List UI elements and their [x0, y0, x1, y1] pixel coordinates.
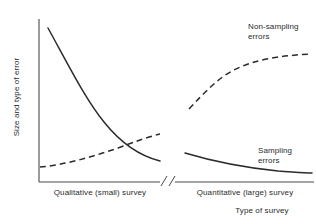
- chart-figure: Size and type of error Non-sampling erro…: [0, 0, 316, 224]
- axis-break-mark-second: [169, 176, 175, 186]
- x-axis-tick-label-quantitative: Quantitative (large) survey: [178, 188, 312, 198]
- x-axis-title: Type of survey: [212, 206, 312, 216]
- annotation-sampling-errors: Sampling errors: [258, 146, 314, 166]
- y-axis-title: Size and type of error: [12, 42, 22, 152]
- curve-left-non-sampling-errors-dashed: [40, 134, 160, 167]
- axis-break-mark-first: [161, 176, 167, 186]
- x-axis-tick-label-qualitative: Qualitative (small) survey: [40, 188, 160, 198]
- curve-right-non-sampling-errors-dashed: [189, 54, 310, 109]
- annotation-non-sampling-errors: Non-sampling errors: [248, 22, 312, 42]
- curve-left-sampling-errors-solid: [48, 28, 160, 161]
